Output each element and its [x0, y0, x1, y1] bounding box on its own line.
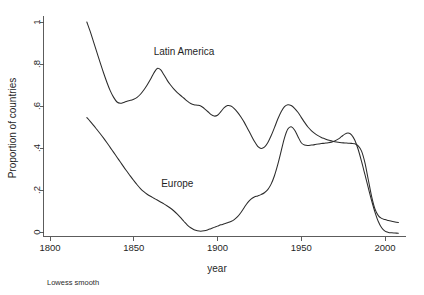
- y-tick-label: .4: [31, 144, 42, 152]
- series-line-europe: [87, 118, 399, 234]
- chart-svg: 0.2.4.6.81 18001850190019502000 Latin Am…: [0, 0, 424, 295]
- y-tick-label: .2: [31, 186, 42, 194]
- series-label-europe: Europe: [161, 178, 194, 189]
- series-label-group: Latin AmericaEurope: [154, 46, 215, 189]
- series-label-latin-america: Latin America: [154, 46, 215, 57]
- y-tick-group: 0.2.4.6.81: [31, 19, 44, 234]
- y-tick-label: .8: [31, 60, 42, 68]
- lowess-chart-figure: 0.2.4.6.81 18001850190019502000 Latin Am…: [0, 0, 424, 295]
- series-group: [87, 22, 399, 233]
- x-tick-label: 1850: [123, 242, 144, 253]
- x-tick-label: 1900: [207, 242, 228, 253]
- x-tick-label: 1800: [39, 242, 60, 253]
- x-axis-title: year: [207, 263, 227, 274]
- y-axis: 0.2.4.6.81: [31, 16, 44, 237]
- series-line-latin-america: [87, 22, 399, 223]
- x-tick-label: 1950: [291, 242, 312, 253]
- x-axis: 18001850190019502000: [39, 237, 406, 253]
- y-tick-label: 1: [31, 19, 42, 24]
- x-tick-label: 2000: [374, 242, 395, 253]
- x-tick-group: 18001850190019502000: [39, 237, 395, 253]
- y-axis-title: Proportion of countries: [7, 78, 18, 179]
- chart-note: Lowess smooth: [47, 278, 99, 287]
- y-tick-label: .6: [31, 102, 42, 110]
- y-tick-label: 0: [31, 229, 42, 234]
